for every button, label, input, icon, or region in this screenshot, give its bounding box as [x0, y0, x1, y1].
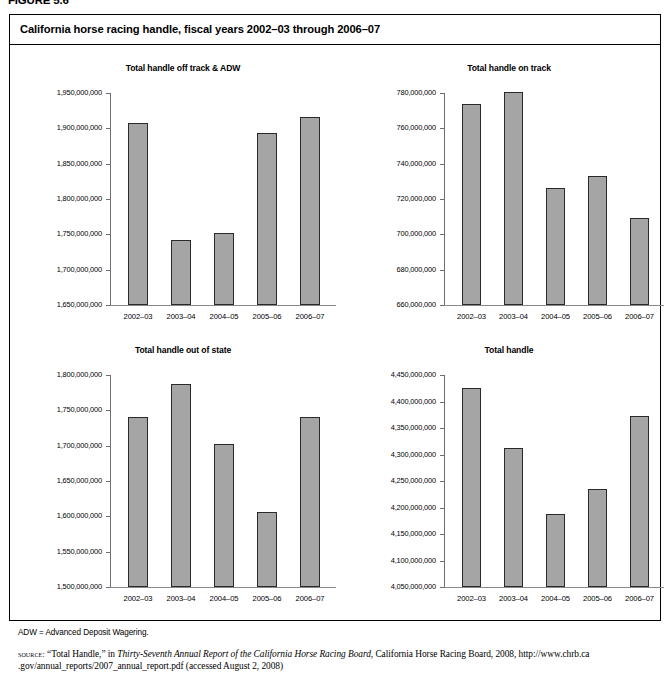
x-category-label: 2006–07 [286, 594, 334, 603]
y-tick-total-handle-3 [440, 455, 444, 456]
y-tick-label-out-of-state-3: 1,650,000,000 [22, 476, 102, 485]
y-tick-label-off-track-adw-1: 1,900,000,000 [22, 123, 102, 132]
y-tick-out-of-state-6 [106, 587, 110, 588]
y-tick-label-total-handle-8: 4,050,000,000 [356, 582, 436, 591]
y-tick-label-total-handle-7: 4,100,000,000 [356, 556, 436, 565]
y-tick-out-of-state-4 [106, 516, 110, 517]
bar [300, 117, 320, 305]
y-axis-line-on-track [444, 93, 445, 305]
y-tick-off-track-adw-5 [106, 270, 110, 271]
y-tick-label-total-handle-2: 4,350,000,000 [356, 423, 436, 432]
y-tick-total-handle-0 [440, 375, 444, 376]
y-tick-label-off-track-adw-3: 1,800,000,000 [22, 194, 102, 203]
y-tick-label-total-handle-0: 4,450,000,000 [356, 370, 436, 379]
figure-box: California horse racing handle, fiscal y… [9, 14, 661, 621]
x-category-label: 2004–05 [200, 594, 248, 603]
y-axis-line-total-handle [444, 375, 445, 587]
y-tick-off-track-adw-6 [106, 305, 110, 306]
y-tick-label-on-track-6: 660,000,000 [356, 300, 436, 309]
y-tick-total-handle-8 [440, 587, 444, 588]
x-category-label: 2003–04 [157, 312, 205, 321]
x-category-label: 2004–05 [532, 594, 580, 603]
y-tick-label-total-handle-6: 4,150,000,000 [356, 529, 436, 538]
chart-title-total-handle: Total handle [350, 345, 668, 355]
y-tick-on-track-3 [440, 199, 444, 200]
plot-area-on-track: 780,000,000760,000,000740,000,000720,000… [444, 93, 654, 305]
bar [128, 417, 148, 587]
x-category-label: 2002–03 [448, 594, 496, 603]
bar [630, 416, 649, 587]
x-category-label: 2005–06 [574, 594, 622, 603]
source-text-b: , California Horse Racing Board, 2008, h… [371, 649, 590, 659]
x-axis-line-off-track-adw [110, 305, 336, 306]
chart-panel-on-track: Total handle on track780,000,000760,000,… [350, 63, 668, 325]
y-tick-on-track-4 [440, 234, 444, 235]
bar [546, 514, 565, 587]
y-tick-label-on-track-2: 740,000,000 [356, 159, 436, 168]
adw-footnote: ADW = Advanced Deposit Wagering. [18, 628, 149, 637]
chart-panel-out-of-state: Total handle out of state1,800,000,0001,… [24, 345, 342, 607]
bar [171, 240, 191, 305]
bar [462, 104, 481, 305]
bar [630, 218, 649, 305]
chart-panel-off-track-adw: Total handle off track & ADW1,950,000,00… [24, 63, 342, 325]
x-axis-line-out-of-state [110, 587, 336, 588]
y-tick-label-on-track-5: 680,000,000 [356, 265, 436, 274]
source-note: source: “Total Handle,” in Thirty-Sevent… [18, 648, 658, 672]
plot-area-off-track-adw: 1,950,000,0001,900,000,0001,850,000,0001… [110, 93, 326, 305]
bar [171, 384, 191, 587]
x-axis-line-on-track [444, 305, 664, 306]
bar [588, 489, 607, 587]
y-tick-out-of-state-2 [106, 446, 110, 447]
y-axis-line-out-of-state [110, 375, 111, 587]
y-tick-total-handle-4 [440, 481, 444, 482]
bar [214, 444, 234, 587]
y-tick-label-off-track-adw-4: 1,750,000,000 [22, 229, 102, 238]
y-tick-label-out-of-state-2: 1,700,000,000 [22, 441, 102, 450]
figure-number: FIGURE 5.6 [8, 0, 69, 6]
y-tick-label-on-track-1: 760,000,000 [356, 123, 436, 132]
y-tick-label-on-track-3: 720,000,000 [356, 194, 436, 203]
y-tick-label-off-track-adw-5: 1,700,000,000 [22, 265, 102, 274]
y-tick-on-track-5 [440, 270, 444, 271]
y-tick-label-on-track-4: 700,000,000 [356, 229, 436, 238]
x-category-label: 2003–04 [490, 312, 538, 321]
plot-area-total-handle: 4,450,000,0004,400,000,0004,350,000,0004… [444, 375, 654, 587]
source-text-a: “Total Handle,” in [45, 649, 118, 659]
y-tick-label-on-track-0: 780,000,000 [356, 88, 436, 97]
x-category-label: 2003–04 [490, 594, 538, 603]
bar [588, 176, 607, 305]
y-tick-total-handle-7 [440, 561, 444, 562]
figure-title: California horse racing handle, fiscal y… [20, 23, 380, 35]
y-tick-label-out-of-state-4: 1,600,000,000 [22, 511, 102, 520]
y-tick-total-handle-1 [440, 402, 444, 403]
bar [128, 123, 148, 305]
chart-panel-total-handle: Total handle4,450,000,0004,400,000,0004,… [350, 345, 668, 607]
y-tick-label-out-of-state-6: 1,500,000,000 [22, 582, 102, 591]
x-category-label: 2004–05 [532, 312, 580, 321]
x-category-label: 2006–07 [616, 594, 664, 603]
y-tick-label-out-of-state-0: 1,800,000,000 [22, 370, 102, 379]
y-tick-total-handle-6 [440, 534, 444, 535]
bar [462, 388, 481, 587]
y-tick-out-of-state-1 [106, 410, 110, 411]
x-category-label: 2006–07 [286, 312, 334, 321]
y-tick-label-out-of-state-1: 1,750,000,000 [22, 405, 102, 414]
x-category-label: 2004–05 [200, 312, 248, 321]
bar [504, 448, 523, 587]
x-category-label: 2006–07 [616, 312, 664, 321]
y-tick-out-of-state-5 [106, 552, 110, 553]
plot-area-out-of-state: 1,800,000,0001,750,000,0001,700,000,0001… [110, 375, 326, 587]
source-text-c: .gov/annual_reports/2007_annual_report.p… [18, 661, 283, 671]
x-category-label: 2002–03 [114, 594, 162, 603]
x-category-label: 2002–03 [448, 312, 496, 321]
y-tick-total-handle-5 [440, 508, 444, 509]
y-tick-label-total-handle-3: 4,300,000,000 [356, 450, 436, 459]
x-category-label: 2005–06 [243, 594, 291, 603]
y-tick-label-off-track-adw-6: 1,650,000,000 [22, 300, 102, 309]
bar [546, 188, 565, 305]
title-divider [10, 44, 660, 45]
chart-title-out-of-state: Total handle out of state [24, 345, 342, 355]
bar [257, 512, 277, 587]
bar [504, 92, 523, 305]
